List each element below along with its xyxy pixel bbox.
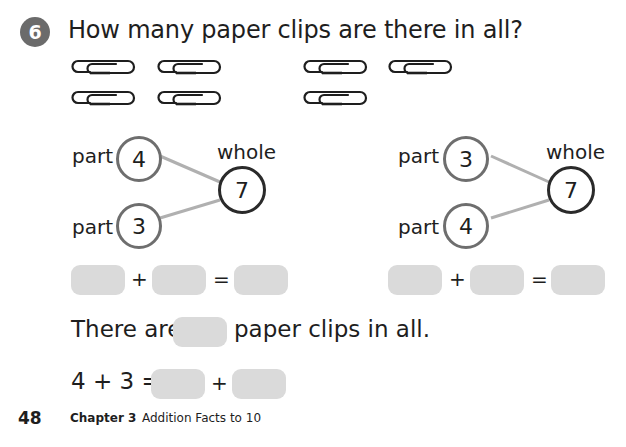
answer-blank-addend2[interactable] xyxy=(232,369,286,399)
part-value: 3 xyxy=(459,147,473,172)
equals-sign: = xyxy=(213,267,230,291)
whole-value: 7 xyxy=(235,178,249,203)
plus-sign: + xyxy=(449,267,466,291)
answer-blank-addend1[interactable] xyxy=(151,369,205,399)
answer-blank-addend2[interactable] xyxy=(152,265,206,295)
page-number: 48 xyxy=(18,408,42,428)
equals-sign: = xyxy=(531,267,548,291)
answer-blank-addend1[interactable] xyxy=(388,265,442,295)
part-label: part xyxy=(72,215,113,239)
whole-value: 7 xyxy=(564,178,578,203)
part-value: 4 xyxy=(132,147,146,172)
part-circle: 4 xyxy=(443,203,489,249)
part-value: 3 xyxy=(132,214,146,239)
part-label: part xyxy=(398,215,439,239)
answer-blank-addend2[interactable] xyxy=(470,265,524,295)
part-circle: 3 xyxy=(443,136,489,182)
sentence-suffix: paper clips in all. xyxy=(234,316,430,342)
chapter-title: Addition Facts to 10 xyxy=(142,411,261,425)
equation-lhs: 4 + 3 = xyxy=(71,368,161,394)
answer-blank-sum[interactable] xyxy=(234,265,288,295)
sentence-prefix: There are xyxy=(71,316,181,342)
part-value: 4 xyxy=(459,214,473,239)
answer-blank-sum[interactable] xyxy=(551,265,605,295)
plus-sign: + xyxy=(131,267,148,291)
part-circle: 3 xyxy=(116,203,162,249)
chapter-label: Chapter 3 xyxy=(70,411,136,425)
whole-label: whole xyxy=(546,140,605,164)
whole-circle: 7 xyxy=(218,166,266,214)
part-label: part xyxy=(72,144,113,168)
answer-blank-addend1[interactable] xyxy=(71,265,125,295)
part-label: part xyxy=(398,144,439,168)
whole-label: whole xyxy=(217,140,276,164)
whole-circle: 7 xyxy=(547,166,595,214)
plus-sign: + xyxy=(211,371,228,395)
part-circle: 4 xyxy=(116,136,162,182)
answer-blank-total[interactable] xyxy=(173,317,227,347)
